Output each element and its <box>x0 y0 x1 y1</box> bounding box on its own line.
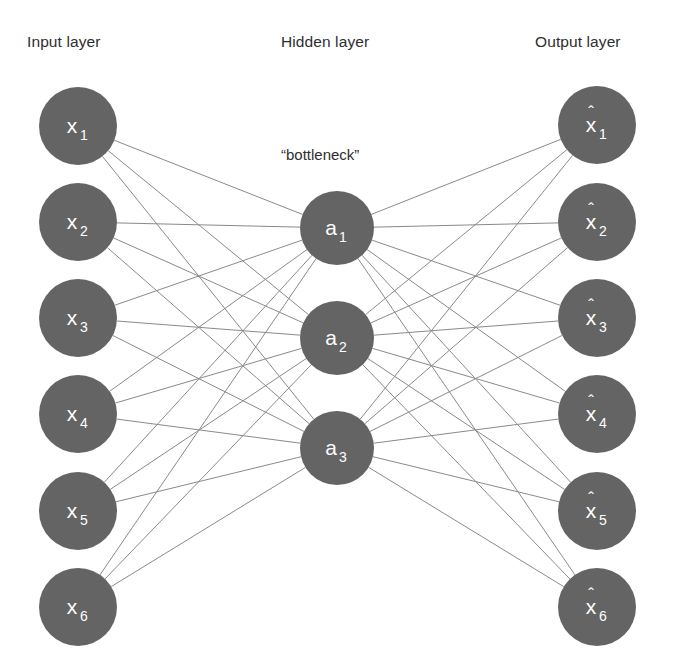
connection-edge <box>114 140 302 214</box>
output-layer-nodes: xˆ1xˆ2xˆ3xˆ4xˆ5xˆ6 <box>558 86 636 646</box>
hidden-layer-nodes: a1a2a3 <box>300 191 374 485</box>
output-node-xhat2[interactable]: xˆ2 <box>558 183 636 261</box>
node-subscript: 6 <box>599 608 607 624</box>
input-node-x3[interactable]: x3 <box>39 279 117 357</box>
node-circle <box>300 191 374 265</box>
output-node-xhat1[interactable]: xˆ1 <box>558 86 636 164</box>
node-subscript: 6 <box>80 608 88 624</box>
connection-edge <box>117 321 300 335</box>
connection-edge <box>362 255 571 482</box>
node-subscript: 2 <box>339 339 347 355</box>
node-circle <box>39 279 117 357</box>
network-graphic: x1x2x3x4x5x6 a1a2a3 xˆ1xˆ2xˆ3xˆ4xˆ5xˆ6 <box>0 0 674 670</box>
node-subscript: 2 <box>80 223 88 239</box>
node-subscript: 1 <box>599 126 607 142</box>
connection-edge <box>114 238 304 323</box>
connection-edge <box>110 250 307 392</box>
connection-edge <box>368 359 565 490</box>
node-symbol: x <box>67 210 78 233</box>
connection-edge <box>366 150 567 315</box>
node-symbol: a <box>325 216 337 239</box>
connection-edge <box>374 223 558 227</box>
input-node-x2[interactable]: x2 <box>39 183 117 261</box>
connection-edge <box>374 419 559 443</box>
hidden-node-a1[interactable]: a1 <box>300 191 374 265</box>
node-symbol: x <box>67 499 78 522</box>
bottleneck-annotation: “bottleneck” <box>281 146 359 163</box>
connection-edge <box>111 467 305 586</box>
node-circle <box>558 279 636 357</box>
node-circle <box>39 472 117 550</box>
node-circle <box>300 411 374 485</box>
connection-edge <box>365 248 568 424</box>
connection-edge <box>116 457 301 502</box>
node-hat-accent: ˆ <box>588 103 594 122</box>
connection-edge <box>374 321 558 335</box>
node-subscript: 4 <box>599 415 607 431</box>
input-node-x5[interactable]: x5 <box>39 472 117 550</box>
connection-edge <box>104 255 312 482</box>
connection-edge <box>117 419 301 443</box>
node-subscript: 3 <box>599 319 607 335</box>
node-symbol: a <box>325 436 337 459</box>
node-symbol: a <box>325 326 337 349</box>
node-subscript: 1 <box>339 229 347 245</box>
output-node-xhat4[interactable]: xˆ4 <box>558 375 636 453</box>
decoder-edges <box>358 139 575 586</box>
output-node-xhat5[interactable]: xˆ5 <box>558 472 636 550</box>
input-node-x1[interactable]: x1 <box>39 87 117 165</box>
node-circle <box>300 301 374 375</box>
autoencoder-diagram: x1x2x3x4x5x6 a1a2a3 xˆ1xˆ2xˆ3xˆ4xˆ5xˆ6 I… <box>0 0 674 670</box>
node-symbol: x <box>67 306 78 329</box>
node-circle <box>558 86 636 164</box>
hidden-node-a2[interactable]: a2 <box>300 301 374 375</box>
node-hat-accent: ˆ <box>588 200 594 219</box>
connection-edge <box>115 348 301 403</box>
connection-edge <box>110 359 306 490</box>
connection-edge <box>369 467 564 586</box>
node-subscript: 1 <box>80 127 88 143</box>
connection-edge <box>117 223 300 227</box>
connection-edge <box>371 238 562 323</box>
connection-edge <box>107 248 309 424</box>
node-hat-accent: ˆ <box>588 392 594 411</box>
node-symbol: x <box>67 402 78 425</box>
connection-edge <box>108 151 308 315</box>
node-circle <box>39 87 117 165</box>
node-circle <box>39 375 117 453</box>
input-layer-nodes: x1x2x3x4x5x6 <box>39 87 117 646</box>
node-circle <box>558 375 636 453</box>
node-hat-accent: ˆ <box>588 585 594 604</box>
connection-edge <box>367 250 565 392</box>
encoder-edges <box>100 140 316 586</box>
node-subscript: 2 <box>599 223 607 239</box>
node-circle <box>558 183 636 261</box>
node-subscript: 3 <box>339 449 347 465</box>
hidden-node-a3[interactable]: a3 <box>300 411 374 485</box>
node-subscript: 3 <box>80 319 88 335</box>
connection-edge <box>373 457 559 502</box>
node-circle <box>558 472 636 550</box>
node-circle <box>39 568 117 646</box>
connection-edge <box>371 139 560 214</box>
node-symbol: x <box>67 595 78 618</box>
node-circle <box>39 183 117 261</box>
output-node-xhat6[interactable]: xˆ6 <box>558 568 636 646</box>
input-node-x4[interactable]: x4 <box>39 375 117 453</box>
node-symbol: x <box>67 114 78 137</box>
output-layer-title: Output layer <box>535 33 621 51</box>
output-node-xhat3[interactable]: xˆ3 <box>558 279 636 357</box>
node-hat-accent: ˆ <box>588 296 594 315</box>
node-subscript: 5 <box>80 512 88 528</box>
input-node-x6[interactable]: x6 <box>39 568 117 646</box>
node-subscript: 5 <box>599 512 607 528</box>
node-subscript: 4 <box>80 415 88 431</box>
input-layer-title: Input layer <box>27 33 100 51</box>
node-circle <box>558 568 636 646</box>
node-hat-accent: ˆ <box>588 489 594 508</box>
connection-edge <box>373 348 560 403</box>
hidden-layer-title: Hidden layer <box>281 33 369 51</box>
